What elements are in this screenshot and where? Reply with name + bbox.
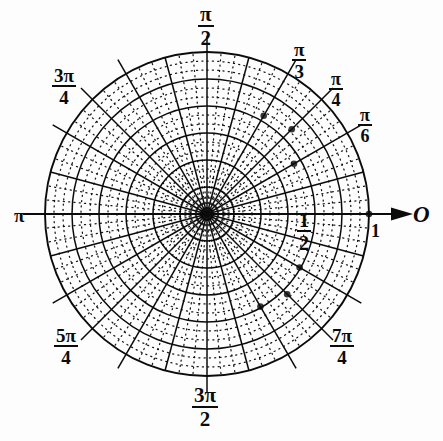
polar-axis-arrowhead (391, 208, 413, 221)
major-grid-spoke (207, 214, 333, 340)
radial-tick-label-one-half: 1 2 (297, 210, 311, 254)
major-grid-spoke (81, 214, 207, 340)
radial-tick-denominator: 2 (297, 232, 311, 253)
angle-label-denominator: 4 (52, 87, 76, 107)
polar-axis-label-o: O (413, 203, 430, 226)
angle-label-three-pi-over-2: 3π 2 (192, 385, 218, 431)
origin-point (204, 211, 211, 218)
marked-point (260, 112, 267, 119)
angle-label-numerator: 5π (54, 326, 78, 347)
angle-label-numerator: π (292, 40, 306, 61)
marked-point (284, 291, 291, 298)
major-grid-spoke (207, 88, 333, 214)
angle-label-numerator: 7π (330, 326, 354, 347)
angle-label-pi-over-4: π 4 (329, 70, 343, 110)
angle-label-denominator: 4 (54, 347, 78, 367)
marked-point (291, 160, 298, 167)
angle-label-numerator: 3π (192, 385, 218, 408)
marked-point (257, 303, 264, 310)
angle-label-denominator: 4 (329, 90, 343, 109)
radial-tick-label-one: 1 (371, 222, 380, 240)
marked-point (296, 264, 303, 271)
angle-label-numerator: 3π (52, 66, 76, 87)
marked-point (288, 126, 295, 133)
angle-label-denominator: 2 (198, 27, 214, 49)
angle-label-three-pi-over-4: 3π 4 (52, 66, 76, 108)
grid-root (23, 36, 413, 392)
angle-label-pi-over-2: π 2 (198, 4, 214, 50)
angle-label-pi-over-6: π 6 (358, 106, 372, 146)
angle-label-five-pi-over-4: 5π 4 (54, 326, 78, 368)
angle-label-numerator: π (329, 70, 343, 90)
major-grid-spoke (81, 88, 207, 214)
angle-label-pi-over-3: π 3 (292, 40, 306, 82)
angle-label-denominator: 2 (192, 408, 218, 430)
angle-label-numerator: π (358, 106, 372, 126)
angle-label-denominator: 4 (330, 347, 354, 367)
angle-label-pi: π (14, 206, 24, 225)
polar-grid-figure: π 2 π 3 π 4 π 6 3π 4 π 5π 4 (0, 0, 443, 441)
angle-label-seven-pi-over-4: 7π 4 (330, 326, 354, 368)
angle-label-denominator: 6 (358, 126, 372, 145)
angle-label-denominator: 3 (292, 61, 306, 81)
marked-point (366, 211, 373, 218)
angle-label-numerator: π (198, 4, 214, 27)
radial-tick-numerator: 1 (297, 210, 311, 232)
